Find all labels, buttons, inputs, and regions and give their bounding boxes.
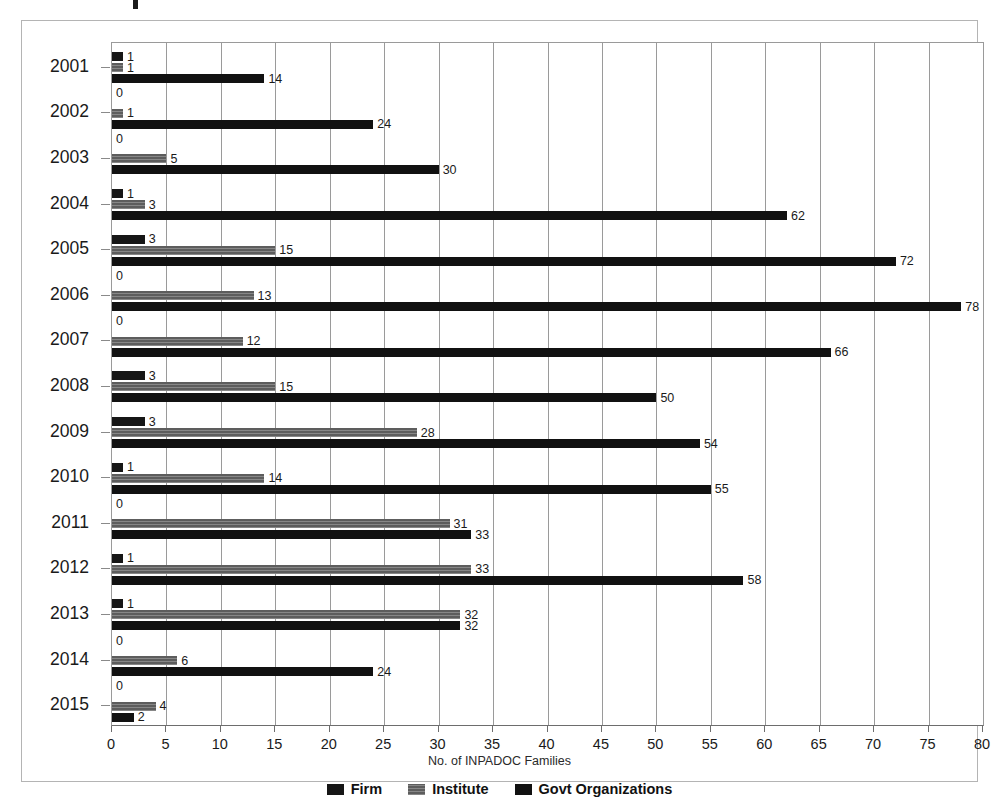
x-tick-label-65: 65 [811,737,827,752]
bar-rect [112,428,417,437]
bar-rect [112,291,254,300]
bar-govt-organizations: 30 [112,165,983,174]
bar-institute: 12 [112,337,983,346]
bar-firm: 1 [112,554,983,563]
x-tick-mark [111,726,112,732]
bar-group-row: 01266 [112,317,983,363]
x-tick-label-60: 60 [756,737,772,752]
bar-value-label: 13 [254,289,272,302]
bar-govt-organizations: 32 [112,621,983,630]
legend-item-institute[interactable]: Institute [408,781,488,797]
bar-firm: 3 [112,417,983,426]
y-tick-mark [101,204,110,205]
bar-firm: 0 [112,508,983,517]
bar-group-row: 32854 [112,408,983,454]
bar-firm: 3 [112,235,983,244]
y-tick-mark [101,340,110,341]
y-tick-label-2010: 2010 [33,468,89,486]
bar-institute: 13 [112,291,983,300]
bar-value-label: 0 [112,316,123,329]
bar-govt-organizations: 78 [112,302,983,311]
bar-institute: 14 [112,474,983,483]
bar-value-label: 32 [460,619,478,632]
bar-rect [112,463,123,472]
bar-group-row: 11455 [112,453,983,499]
bar-govt-organizations: 24 [112,667,983,676]
bar-rect [112,713,134,722]
legend-swatch-icon [515,784,532,795]
bar-value-label: 33 [471,528,489,541]
bar-group-row: 31550 [112,362,983,408]
x-tick-mark [819,726,820,732]
bar-rect [112,576,743,585]
bar-rect [112,599,123,608]
bar-value-label: 3 [145,415,156,428]
bar-govt-organizations: 72 [112,257,983,266]
bar-value-label: 14 [264,72,282,85]
x-tick-label-80: 80 [974,737,990,752]
x-tick-mark [982,726,983,732]
bar-value-label: 1 [123,597,134,610]
y-tick-mark [101,523,110,524]
y-tick-mark [101,158,110,159]
x-tick-mark [165,726,166,732]
bar-firm: 1 [112,189,983,198]
bar-value-label: 14 [264,472,282,485]
bar-rect [112,474,264,483]
y-tick-label-2004: 2004 [33,195,89,213]
bar-rect [112,189,123,198]
bar-rect [112,610,460,619]
bar-rect [112,667,373,676]
y-tick-label-2002: 2002 [33,103,89,121]
y-tick-mark [101,295,110,296]
x-tick-label-15: 15 [266,737,282,752]
y-tick-mark [101,614,110,615]
bar-group-row: 01378 [112,271,983,317]
bar-rect [112,74,264,83]
bar-value-label: 1 [123,107,134,120]
plot-area: 1114012405301362315720137801266315503285… [111,42,984,726]
x-tick-mark [873,726,874,732]
bar-firm: 0 [112,98,983,107]
bar-value-label: 0 [112,270,123,283]
bar-rect [112,393,656,402]
bar-rect [112,417,145,426]
bar-value-label: 62 [787,209,805,222]
bar-rect [112,371,145,380]
bar-rect [112,621,460,630]
bar-value-label: 1 [123,552,134,565]
bar-institute: 3 [112,200,983,209]
bar-rect [112,63,123,72]
bar-value-label: 1 [123,461,134,474]
bar-rect [112,200,145,209]
legend-label: Govt Organizations [539,781,673,797]
legend-item-govt-organizations[interactable]: Govt Organizations [515,781,673,797]
y-tick-label-2012: 2012 [33,559,89,577]
bar-rect [112,382,275,391]
y-tick-label-2006: 2006 [33,286,89,304]
x-tick-label-55: 55 [702,737,718,752]
x-tick-label-25: 25 [375,737,391,752]
y-tick-label-2008: 2008 [33,377,89,395]
bar-rect [112,565,471,574]
bar-value-label: 0 [112,635,123,648]
bar-rect [112,554,123,563]
bar-group-row: 03133 [112,499,983,545]
bar-firm: 1 [112,599,983,608]
y-tick-mark [101,568,110,569]
x-tick-label-50: 50 [647,737,663,752]
bar-firm: 0 [112,645,983,654]
x-tick-mark [764,726,765,732]
bar-institute: 6 [112,656,983,665]
bar-value-label: 2 [134,711,145,724]
x-tick-label-40: 40 [538,737,554,752]
bar-group-row: 0530 [112,134,983,180]
legend-item-firm[interactable]: Firm [327,781,382,797]
y-tick-mark [101,386,110,387]
bar-value-label: 72 [896,255,914,268]
bar-value-label: 54 [700,437,718,450]
bar-firm: 0 [112,280,983,289]
x-tick-mark [547,726,548,732]
bar-value-label: 30 [439,163,457,176]
bar-rect [112,165,439,174]
